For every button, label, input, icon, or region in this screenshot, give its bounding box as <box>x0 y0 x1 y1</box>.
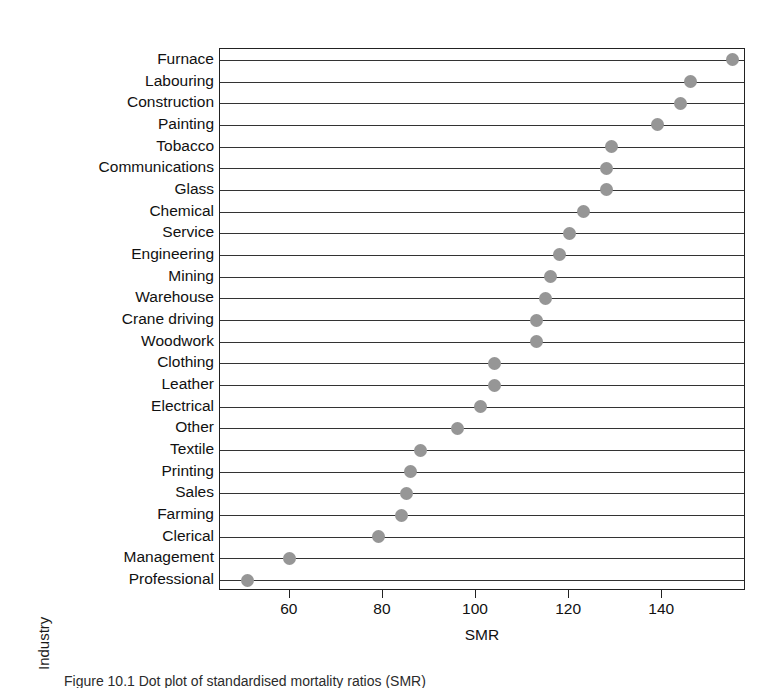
y-tick-label: Warehouse <box>14 289 214 305</box>
data-point <box>539 292 552 305</box>
x-tick-mark <box>289 590 290 598</box>
y-tick-label: Painting <box>14 116 214 132</box>
data-point <box>674 97 687 110</box>
row-rule <box>220 385 744 386</box>
y-tick-label: Tobacco <box>14 138 214 154</box>
data-point <box>563 227 576 240</box>
y-tick-label: Professional <box>14 571 214 587</box>
data-point <box>488 379 501 392</box>
data-point <box>684 75 697 88</box>
y-tick-label: Labouring <box>14 73 214 89</box>
row-rule <box>220 82 744 83</box>
row-rule <box>220 147 744 148</box>
row-rule <box>220 342 744 343</box>
row-rule <box>220 168 744 169</box>
y-tick-label: Mining <box>14 268 214 284</box>
data-point <box>530 335 543 348</box>
x-tick-label: 120 <box>538 601 598 617</box>
row-rule <box>220 103 744 104</box>
y-tick-label: Electrical <box>14 398 214 414</box>
row-rule <box>220 515 744 516</box>
x-axis-title: SMR <box>219 626 745 643</box>
y-tick-label: Crane driving <box>14 311 214 327</box>
x-tick-mark <box>661 590 662 598</box>
row-rule <box>220 233 744 234</box>
row-rule <box>220 363 744 364</box>
row-rule <box>220 428 744 429</box>
y-tick-label: Management <box>14 549 214 565</box>
y-tick-label: Clerical <box>14 528 214 544</box>
row-rule <box>220 320 744 321</box>
data-point <box>283 552 296 565</box>
x-tick-label: 80 <box>352 601 412 617</box>
y-tick-label: Woodwork <box>14 333 214 349</box>
y-tick-label: Sales <box>14 484 214 500</box>
y-tick-label: Furnace <box>14 51 214 67</box>
data-point <box>451 422 464 435</box>
row-rule <box>220 493 744 494</box>
data-point <box>605 140 618 153</box>
row-rule <box>220 277 744 278</box>
x-axis: 6080100120140 <box>219 590 745 630</box>
x-tick-label: 60 <box>259 601 319 617</box>
y-tick-label: Construction <box>14 94 214 110</box>
data-point <box>372 530 385 543</box>
y-tick-label: Glass <box>14 181 214 197</box>
data-point <box>395 509 408 522</box>
row-rule <box>220 190 744 191</box>
data-point <box>414 444 427 457</box>
data-point <box>544 270 557 283</box>
plot-panel <box>219 48 745 590</box>
y-tick-label: Clothing <box>14 354 214 370</box>
x-tick-mark <box>382 590 383 598</box>
row-rule <box>220 558 744 559</box>
data-point <box>553 248 566 261</box>
data-point <box>474 400 487 413</box>
row-rule <box>220 450 744 451</box>
data-point <box>530 314 543 327</box>
y-tick-label: Leather <box>14 376 214 392</box>
x-tick-label: 100 <box>445 601 505 617</box>
row-rule <box>220 537 744 538</box>
data-point <box>241 574 254 587</box>
data-point <box>488 357 501 370</box>
dot-plot-figure: Industry FurnaceLabouringConstructionPai… <box>0 0 775 688</box>
row-rule <box>220 212 744 213</box>
data-point <box>726 53 739 66</box>
y-axis-tick-labels: FurnaceLabouringConstructionPaintingToba… <box>8 48 214 590</box>
y-tick-label: Engineering <box>14 246 214 262</box>
y-tick-label: Other <box>14 419 214 435</box>
y-tick-label: Printing <box>14 463 214 479</box>
y-tick-label: Textile <box>14 441 214 457</box>
x-tick-mark <box>475 590 476 598</box>
data-point <box>600 162 613 175</box>
data-point <box>600 183 613 196</box>
row-rule <box>220 580 744 581</box>
x-tick-label: 140 <box>631 601 691 617</box>
row-rule <box>220 60 744 61</box>
y-tick-label: Communications <box>14 159 214 175</box>
y-tick-label: Chemical <box>14 203 214 219</box>
row-rule <box>220 125 744 126</box>
data-point <box>651 118 664 131</box>
x-tick-mark <box>568 590 569 598</box>
data-point <box>404 465 417 478</box>
row-rule <box>220 298 744 299</box>
figure-caption: Figure 10.1 Dot plot of standardised mor… <box>64 672 724 688</box>
y-tick-label: Service <box>14 224 214 240</box>
y-tick-label: Farming <box>14 506 214 522</box>
data-point <box>577 205 590 218</box>
row-rule <box>220 472 744 473</box>
data-point <box>400 487 413 500</box>
row-rule <box>220 255 744 256</box>
